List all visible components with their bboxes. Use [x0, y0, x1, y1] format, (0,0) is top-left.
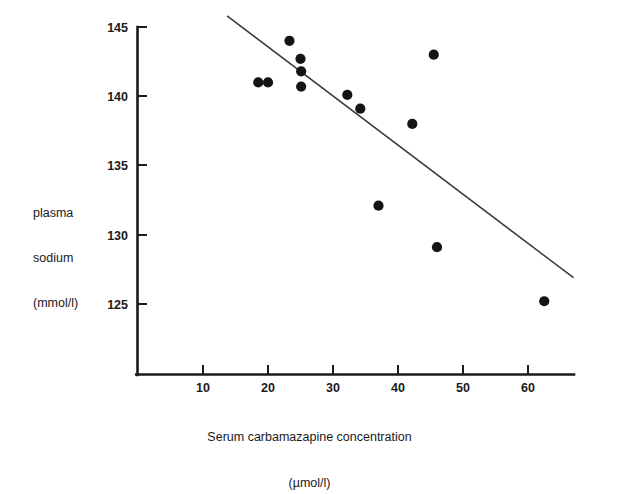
data-point	[253, 77, 263, 87]
x-tick-label-60: 60	[521, 381, 535, 395]
data-point	[296, 66, 306, 76]
axes	[136, 27, 574, 375]
regression-line	[227, 16, 573, 278]
x-tick-label-40: 40	[391, 381, 405, 395]
data-point	[295, 54, 305, 64]
x-axis-tick-labels: 10 20 30 40 50 60	[196, 381, 535, 395]
y-tick-label-145: 145	[107, 21, 128, 35]
x-tick-label-30: 30	[326, 381, 340, 395]
y-axis-label-line-2: sodium	[33, 251, 78, 266]
x-axis-label: Serum carbamazapine concentration (µmol/…	[0, 399, 619, 494]
data-point	[342, 90, 352, 100]
data-point	[263, 77, 273, 87]
x-axis-ticks	[203, 365, 528, 374]
data-point	[407, 119, 417, 129]
data-point	[432, 242, 442, 252]
x-tick-label-10: 10	[196, 381, 210, 395]
data-point	[429, 50, 439, 60]
y-axis-label-line-1: plasma	[33, 206, 78, 221]
x-axis-label-text: Serum carbamazapine concentration	[0, 429, 619, 445]
y-axis-label-line-3: (mmol/l)	[33, 296, 78, 311]
data-points	[253, 36, 549, 307]
data-point	[296, 81, 306, 91]
y-tick-label-125: 125	[107, 298, 128, 312]
y-axis-tick-labels: 145 140 135 130 125	[107, 21, 128, 312]
y-tick-label-140: 140	[107, 90, 128, 104]
data-point	[539, 296, 549, 306]
x-axis-label-units: (µmol/l)	[0, 475, 619, 491]
regression-line-segment	[227, 16, 573, 278]
data-point	[284, 36, 294, 46]
y-axis-label: plasma sodium (mmol/l)	[33, 176, 78, 341]
x-tick-label-50: 50	[456, 381, 470, 395]
x-tick-label-20: 20	[261, 381, 275, 395]
data-point	[373, 201, 383, 211]
data-point	[355, 104, 365, 114]
y-tick-label-130: 130	[107, 229, 128, 243]
y-tick-label-135: 135	[107, 159, 128, 173]
